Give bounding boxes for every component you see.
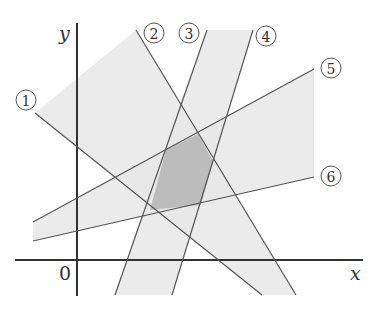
label-line-6: 6 <box>321 166 341 186</box>
x-axis-label: x <box>350 262 361 284</box>
label-line-1: 1 <box>16 90 36 110</box>
label-2-text: 2 <box>150 26 159 42</box>
origin-label: 0 <box>59 262 71 284</box>
y-axis-label: y <box>58 22 70 44</box>
label-4-text: 4 <box>262 29 271 45</box>
label-line-5: 5 <box>321 58 341 78</box>
label-line-2: 2 <box>144 23 164 43</box>
label-1-text: 1 <box>22 93 31 109</box>
label-5-text: 5 <box>327 61 336 77</box>
inequality-diagram: x y 0 1 2 3 4 5 <box>0 0 389 312</box>
label-6-text: 6 <box>327 169 336 185</box>
label-3-text: 3 <box>185 26 194 42</box>
label-line-4: 4 <box>256 26 276 46</box>
label-line-3: 3 <box>179 23 199 43</box>
